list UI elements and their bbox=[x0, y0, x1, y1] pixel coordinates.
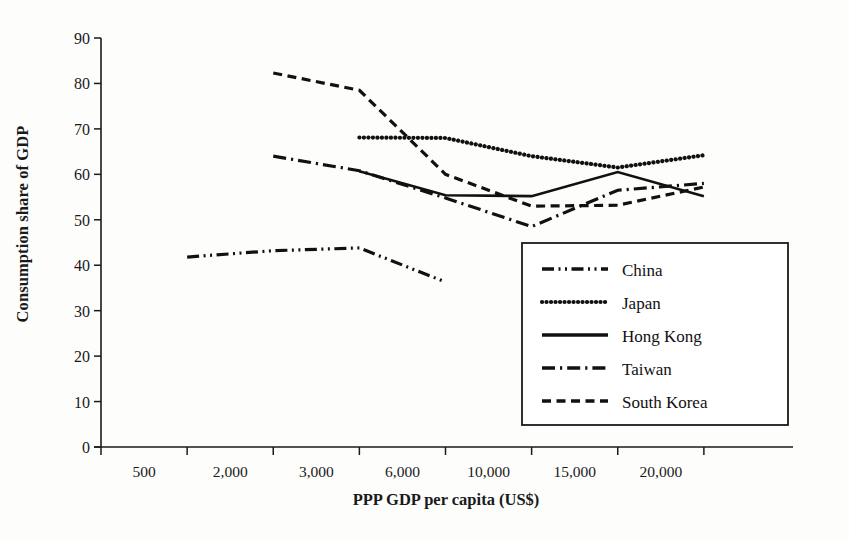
legend-label-south-korea: South Korea bbox=[622, 393, 708, 412]
x-tick-label: 6,000 bbox=[385, 463, 420, 480]
x-tick-label: 10,000 bbox=[467, 463, 510, 480]
x-tick-label: 500 bbox=[132, 463, 156, 480]
y-tick-label: 90 bbox=[74, 30, 90, 47]
y-axis-tick-marks bbox=[94, 38, 101, 447]
y-tick-label: 60 bbox=[74, 166, 90, 183]
y-tick-label: 40 bbox=[74, 257, 90, 274]
x-tick-label: 20,000 bbox=[640, 463, 683, 480]
legend-label-hong-kong: Hong Kong bbox=[622, 327, 702, 346]
y-tick-label: 20 bbox=[74, 348, 90, 365]
legend[interactable]: ChinaJapanHong KongTaiwanSouth Korea bbox=[522, 243, 788, 425]
legend-label-japan: Japan bbox=[622, 294, 661, 313]
y-axis-tick-labels: 0102030405060708090 bbox=[74, 30, 90, 456]
series-line-china bbox=[187, 248, 445, 282]
y-tick-label: 10 bbox=[74, 394, 90, 411]
series-line-hong-kong bbox=[359, 171, 704, 196]
x-axis-title-text: PPP GDP per capita (US$) bbox=[353, 490, 540, 509]
y-tick-label: 0 bbox=[82, 439, 90, 456]
x-axis-tick-labels: 5002,0003,0006,00010,00015,00020,000 bbox=[132, 463, 682, 480]
y-axis-title-text: Consumption share of GDP bbox=[13, 125, 33, 322]
legend-label-taiwan: Taiwan bbox=[622, 360, 672, 379]
y-tick-label: 80 bbox=[74, 75, 90, 92]
x-tick-label: 15,000 bbox=[553, 463, 596, 480]
x-axis-title: PPP GDP per capita (US$) bbox=[101, 490, 791, 510]
series-line-south-korea bbox=[273, 73, 704, 206]
y-axis-title: Consumption share of GDP bbox=[6, 0, 40, 447]
x-axis-tick-marks bbox=[101, 447, 704, 455]
figure: Consumption share of GDP 010203040506070… bbox=[0, 0, 849, 541]
line-chart-plot: 0102030405060708090 5002,0003,0006,00010… bbox=[0, 0, 849, 541]
y-tick-label: 50 bbox=[74, 212, 90, 229]
y-tick-label: 70 bbox=[74, 121, 90, 138]
x-tick-label: 2,000 bbox=[213, 463, 248, 480]
y-tick-label: 30 bbox=[74, 303, 90, 320]
legend-label-china: China bbox=[622, 261, 663, 280]
x-tick-label: 3,000 bbox=[299, 463, 334, 480]
